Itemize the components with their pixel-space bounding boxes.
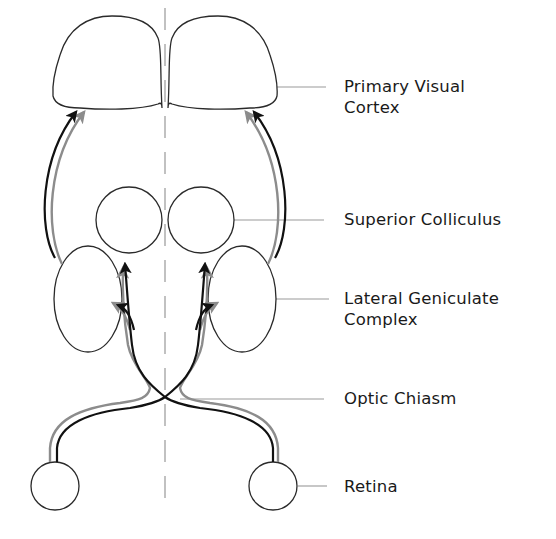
right-superior-colliculus [168, 187, 234, 253]
visual-pathway-diagram [0, 0, 556, 539]
label-line: Complex [344, 309, 499, 330]
label-line: Optic Chiasm [344, 388, 457, 409]
left-superior-colliculus [96, 187, 162, 253]
label-line: Retina [344, 476, 398, 497]
label-retina: Retina [344, 476, 398, 497]
label-optic-chiasm: Optic Chiasm [344, 388, 457, 409]
right-retina [249, 462, 297, 510]
label-line: Superior Colliculus [344, 209, 501, 230]
right-lateral-geniculate [208, 246, 276, 352]
left-visual-cortex [53, 16, 162, 109]
left-retina [31, 462, 79, 510]
label-line: Lateral Geniculate [344, 288, 499, 309]
label-superior-colliculus: Superior Colliculus [344, 209, 501, 230]
label-lateral-geniculate-complex: Lateral Geniculate Complex [344, 288, 499, 330]
left-lateral-geniculate [54, 246, 122, 352]
label-primary-visual-cortex: Primary Visual Cortex [344, 76, 465, 118]
label-line: Primary Visual [344, 76, 465, 97]
label-line: Cortex [344, 97, 465, 118]
right-visual-cortex [168, 16, 277, 109]
